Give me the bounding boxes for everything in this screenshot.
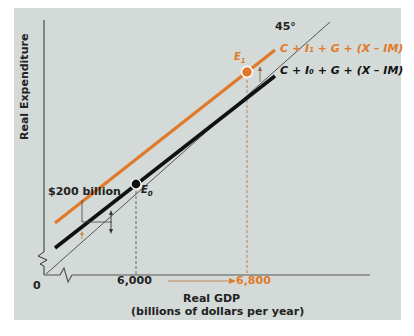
shift-label: $200 billion	[48, 185, 121, 198]
equilibrium-point-e1	[242, 67, 253, 78]
angle-label: 45°	[275, 20, 296, 33]
tick-label-6800: 6,800	[236, 274, 271, 287]
curve-label-old: C + I₀ + G + (X – IM)	[280, 64, 403, 77]
x-axis-label: Real GDP	[183, 292, 240, 305]
equilibrium-point-e0	[131, 179, 141, 189]
shift-arrow-head-down	[109, 229, 113, 234]
e0-letter: E	[141, 184, 148, 195]
up-arrow-left-head	[80, 231, 84, 235]
x-axis-sublabel: (billions of dollars per year)	[131, 305, 304, 318]
shift-bracket	[82, 200, 112, 222]
gdp-shift-arrow-head	[229, 278, 236, 284]
x-axis	[44, 268, 370, 282]
e1-label: E1	[234, 51, 246, 65]
curve-label-new: C + I₁ + G + (X – IM)	[280, 42, 403, 55]
y-axis-label: Real Expenditure	[18, 34, 31, 140]
e0-subscript: 0	[148, 190, 153, 198]
e1-letter: E	[234, 51, 241, 62]
line-45-degree	[46, 22, 330, 274]
up-arrow-right-head	[258, 66, 262, 71]
origin-label: 0	[33, 279, 41, 292]
e1-subscript: 1	[241, 57, 246, 65]
y-axis	[38, 20, 47, 275]
shift-arrow-head-up	[109, 210, 113, 215]
e0-label: E0	[141, 184, 153, 198]
tick-label-6000: 6,000	[117, 274, 152, 287]
